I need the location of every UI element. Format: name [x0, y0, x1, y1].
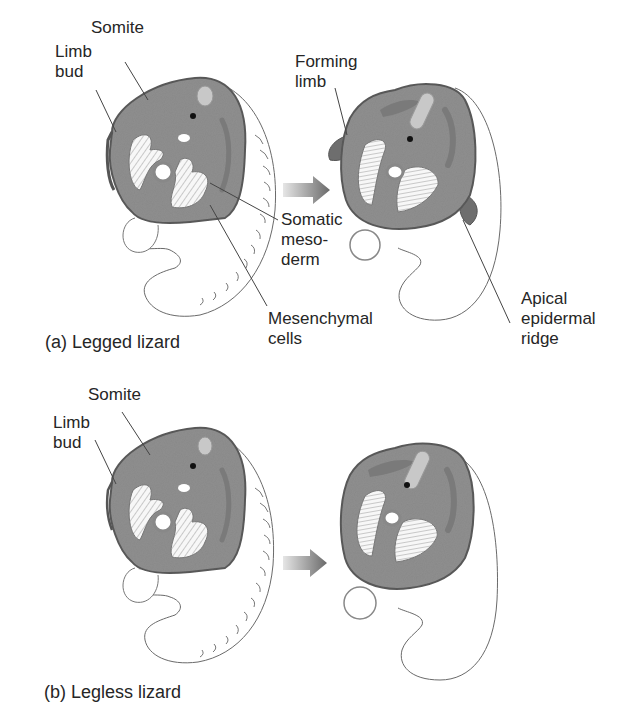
- embryo-b-late: [341, 444, 498, 680]
- label-somatic-mesoderm-line1: Somatic: [281, 210, 342, 230]
- label-limb-bud-a-line2: bud: [55, 62, 83, 82]
- embryo-a-late: [329, 84, 501, 320]
- label-aer-line1: Apical: [521, 289, 567, 309]
- label-forming-limb-line2: limb: [295, 72, 326, 92]
- right-arrow-icon: [283, 176, 330, 204]
- label-limb-bud-b-line1: Limb: [53, 413, 90, 433]
- label-limb-bud-a-line1: Limb: [55, 42, 92, 62]
- label-mesenchymal-cells-line2: cells: [268, 329, 302, 349]
- limb-development-figure: Somite Limb bud Forming limb Somatic mes…: [0, 0, 633, 704]
- caption-legged-lizard: (a) Legged lizard: [45, 331, 180, 353]
- label-aer-line3: ridge: [521, 329, 559, 349]
- embryo-b-early: [107, 428, 273, 663]
- label-mesenchymal-cells-line1: Mesenchymal: [268, 309, 373, 329]
- caption-legless-lizard: (b) Legless lizard: [44, 681, 181, 703]
- label-somatic-mesoderm-line2: meso-: [281, 230, 328, 250]
- label-forming-limb-line1: Forming: [295, 52, 357, 72]
- label-limb-bud-b-line2: bud: [53, 433, 81, 453]
- label-somite-a: Somite: [91, 18, 144, 38]
- label-somatic-mesoderm-line3: derm: [281, 250, 320, 270]
- embryo-a-early: [107, 78, 275, 317]
- label-aer-line2: epidermal: [521, 309, 596, 329]
- label-somite-b: Somite: [88, 385, 141, 405]
- right-arrow-icon: [283, 549, 327, 577]
